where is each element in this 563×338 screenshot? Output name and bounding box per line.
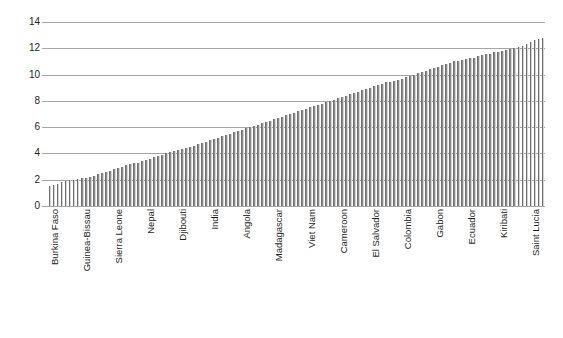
bar [489,54,492,206]
bar [325,102,328,206]
y-axis: 02468101214 [0,0,48,338]
y-tick-label: 0 [34,201,40,211]
x-tick-label: Gabon [435,209,445,238]
bar [197,144,200,206]
bar [526,44,529,206]
bar [205,142,208,206]
bar [97,174,100,206]
bar [289,114,292,206]
bar [133,163,136,206]
bar [57,184,60,206]
bar [493,52,496,206]
x-tick-label: Angola [242,209,252,239]
bar [457,61,460,206]
x-tick-label: Nepal [146,209,156,234]
bar [409,76,412,206]
bar [522,46,525,206]
bar-series [48,22,545,206]
bar [505,50,508,206]
bar [373,86,376,206]
y-tick-label: 14 [29,17,40,27]
bar [221,136,224,206]
bar [349,94,352,206]
bar [453,61,456,206]
bar [397,80,400,206]
bar [93,176,96,206]
bar [357,92,360,206]
bar [249,127,252,206]
bar [385,82,388,206]
bar [145,160,148,206]
bar [157,156,160,206]
bar [105,172,108,206]
x-tick-label: Sierra Leone [114,209,124,263]
y-tick-label: 12 [29,43,40,53]
bar [485,54,488,206]
bar [109,171,112,206]
y-tick-label: 4 [34,148,40,158]
bar [317,105,320,206]
bar [137,163,140,206]
x-tick-label: Kiribati [499,209,509,238]
bar [185,148,188,206]
bar [405,77,408,206]
bar [149,159,152,206]
bar [473,58,476,207]
bar [469,58,472,206]
x-tick-label: Burkina Faso [50,209,60,265]
bar [538,39,541,206]
bar [413,75,416,206]
x-tick-label: El Salvador [371,209,381,258]
bar [281,117,284,206]
bar [285,115,288,206]
bar [209,140,212,206]
bar [173,151,176,206]
bar [530,42,533,206]
bar [65,181,68,206]
y-tick-label: 6 [34,122,40,132]
bar [229,134,232,206]
x-tick-label: Colombia [403,209,413,249]
y-tick-label: 10 [29,70,40,80]
bar [297,111,300,206]
bar [217,138,220,206]
bar [481,55,484,206]
bar [389,82,392,206]
bar [125,165,128,206]
bar [401,79,404,206]
bar [189,147,192,206]
bar [153,157,156,206]
bar [341,97,344,206]
y-tick-label: 2 [34,175,40,185]
bar [333,100,336,206]
bar [181,149,184,206]
bar [365,89,368,206]
bar [353,93,356,206]
x-tick-label: Madagascar [274,209,284,261]
bar [253,126,256,206]
bar [449,63,452,206]
bar [193,146,196,206]
bar [417,73,420,206]
bar [237,131,240,206]
x-axis: Burkina FasoGuinea-BissauSierra LeoneNep… [48,206,545,338]
bar [61,182,64,206]
bar [241,130,244,206]
bar [261,123,264,206]
bar [369,88,372,206]
bar [245,128,248,206]
bar [177,150,180,207]
bar [257,125,260,206]
y-tick-label: 8 [34,96,40,106]
x-tick-label: Viet Nam [307,209,317,248]
bar [225,135,228,206]
x-tick-label: Cameroon [339,209,349,253]
bar [101,173,104,206]
bar [277,118,280,206]
bar [213,139,216,206]
x-tick-label: Saint Lucia [531,209,541,256]
bar [441,65,444,206]
bar [497,52,500,206]
bar [161,155,164,206]
bar [337,98,340,206]
